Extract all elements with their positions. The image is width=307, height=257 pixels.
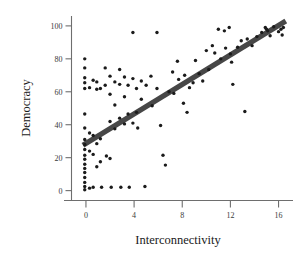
data-point: [140, 79, 143, 82]
data-point: [172, 92, 175, 95]
data-point: [113, 103, 116, 106]
data-point: [88, 131, 91, 134]
data-point: [91, 134, 94, 137]
data-point: [250, 44, 253, 47]
data-point: [177, 78, 180, 81]
data-point: [161, 153, 164, 156]
data-point: [282, 26, 285, 29]
data-point: [277, 30, 280, 33]
data-point: [83, 126, 86, 129]
data-point: [223, 29, 226, 32]
data-point: [105, 154, 108, 157]
data-point: [88, 186, 91, 189]
data-point: [104, 66, 107, 69]
data-point: [113, 80, 116, 83]
data-point: [231, 83, 234, 86]
data-point: [110, 186, 113, 189]
data-point: [266, 29, 269, 32]
data-point: [95, 142, 98, 145]
data-point: [91, 79, 94, 82]
data-point: [83, 87, 86, 90]
data-point: [207, 68, 210, 71]
data-point: [108, 93, 111, 96]
data-point: [83, 181, 86, 184]
data-point: [135, 87, 138, 90]
x-axis-title: Interconnectivity: [135, 233, 221, 247]
data-point: [188, 86, 191, 89]
x-tick-label: 12: [226, 211, 234, 220]
data-point: [100, 186, 103, 189]
regression-line: [83, 21, 286, 145]
data-point: [83, 81, 86, 84]
regression-line-segment: [83, 21, 286, 145]
data-point: [268, 34, 271, 37]
x-tick-label: 8: [180, 211, 184, 220]
data-point: [126, 83, 129, 86]
data-point: [230, 60, 233, 63]
data-point: [99, 160, 102, 163]
y-tick-label: 20: [55, 154, 63, 163]
data-point: [99, 137, 102, 140]
data-point: [201, 79, 204, 82]
y-tick-label: 40: [55, 121, 63, 130]
data-point: [255, 35, 258, 38]
x-tick-label: 0: [84, 211, 88, 220]
x-tick-label: 4: [132, 211, 136, 220]
plot-canvas: 020406080100 0481216 Democracy Interconn…: [0, 0, 307, 257]
scatter-plot-figure: 020406080100 0481216 Democracy Interconn…: [0, 0, 307, 257]
data-point: [83, 112, 86, 115]
data-point: [217, 27, 220, 30]
data-point: [131, 77, 134, 80]
x-tick-label: 16: [275, 211, 283, 220]
data-point: [171, 70, 174, 73]
data-point: [123, 122, 126, 125]
data-point: [88, 149, 91, 152]
data-point: [219, 57, 222, 60]
data-point: [243, 110, 246, 113]
data-point: [197, 72, 200, 75]
y-axis: 020406080100: [51, 16, 72, 200]
data-point: [123, 95, 126, 98]
data-point: [144, 83, 147, 86]
data-point: [280, 33, 283, 36]
data-point: [229, 52, 232, 55]
data-point: [95, 165, 98, 168]
data-point: [213, 51, 216, 54]
data-point: [185, 111, 188, 114]
x-axis-ticks: 0481216: [84, 201, 283, 220]
data-point: [260, 31, 263, 34]
data-point: [108, 157, 111, 160]
data-point: [83, 158, 86, 161]
data-point: [83, 148, 86, 151]
data-point: [272, 25, 275, 28]
data-point: [164, 163, 167, 166]
y-axis-title: Democracy: [19, 78, 33, 136]
data-point: [83, 176, 86, 179]
data-point: [150, 104, 153, 107]
data-point: [118, 68, 121, 71]
data-point: [236, 46, 239, 49]
data-point: [95, 80, 98, 83]
data-point: [108, 74, 111, 77]
data-point: [95, 88, 98, 91]
data-point: [83, 171, 86, 174]
data-point: [205, 49, 208, 52]
data-point: [224, 46, 227, 49]
data-point: [83, 163, 86, 166]
data-point: [131, 121, 134, 124]
data-point: [167, 90, 170, 93]
data-point: [246, 37, 249, 40]
data-point: [83, 57, 86, 60]
data-point: [118, 83, 121, 86]
data-point: [143, 185, 146, 188]
data-point: [83, 167, 86, 170]
y-tick-label: 60: [55, 88, 63, 97]
data-point: [83, 66, 86, 69]
data-point: [176, 60, 179, 63]
data-point: [126, 112, 129, 115]
data-point: [183, 74, 186, 77]
data-point: [149, 74, 152, 77]
y-tick-label: 0: [59, 187, 63, 196]
data-point: [131, 31, 134, 34]
data-point: [83, 185, 86, 188]
